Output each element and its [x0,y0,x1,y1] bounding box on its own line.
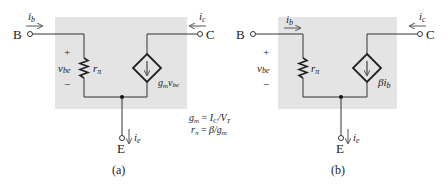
panel-a-caption: (a) [112,163,125,177]
vbe-plus: + [263,46,269,58]
collector-current-label: ic [419,10,426,24]
vbe-minus: − [263,78,269,90]
panel-a: B C E ib ic ie + vbe − rπ gmvbe (a) [13,10,215,177]
panel-b: B C E ib ic ie + vbe − rπ βib (b) [236,10,435,177]
base-current-label: ib [28,10,35,24]
panel-b-caption: (b) [331,163,345,177]
formula-rpi: rπ = β/gm [191,124,227,137]
emitter-terminal [339,136,344,141]
hybrid-pi-model-diagram: B C E ib ic ie + vbe − rπ gmvbe (a) gm =… [0,0,448,186]
formulas: gm = IC/VT rπ = β/gm [189,112,232,137]
base-terminal [28,32,33,37]
emitter-label: E [117,141,125,156]
base-label: B [13,27,22,42]
base-terminal [251,32,256,37]
vbe-plus: + [64,46,70,58]
collector-terminal [418,32,423,37]
emitter-current-label: ie [134,131,141,145]
panel-b-shaded-box [278,17,397,109]
collector-terminal [198,32,203,37]
vbe-label: vbe [257,62,270,75]
collector-label: C [206,27,215,42]
collector-current-label: ic [199,10,206,24]
vbe-minus: − [64,78,70,90]
emitter-current-label: ie [353,131,360,145]
emitter-terminal [120,136,125,141]
emitter-label: E [336,141,344,156]
collector-label: C [426,27,435,42]
base-label: B [236,27,245,42]
base-current-label: ib [286,13,293,27]
panel-a-shaded-box [55,17,187,109]
